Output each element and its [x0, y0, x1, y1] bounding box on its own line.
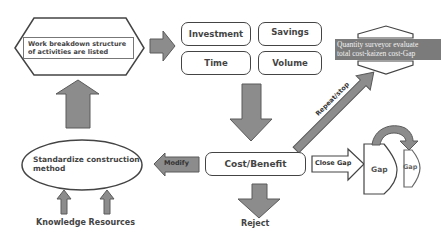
wbs-line1: Work breakdown structure: [28, 40, 129, 48]
qs-line1: Quantity surveyor evaluate: [337, 40, 439, 49]
knowledge-arrow-right: [100, 190, 114, 214]
factor-time: Time: [181, 51, 251, 75]
factor-investment-label: Investment: [189, 29, 243, 39]
arrow-up-to-wbs: [56, 80, 99, 128]
standardize-label: Standardize construction method: [33, 155, 140, 173]
cost-benefit-box: Cost/Benefit: [205, 152, 306, 176]
knowledge-arrow-left: [57, 190, 71, 214]
factor-investment: Investment: [181, 22, 251, 46]
arrow-repeat-stop: [289, 65, 381, 157]
standardize-line2: method: [33, 164, 140, 173]
factor-time-label: Time: [204, 58, 227, 68]
factor-savings: Savings: [258, 22, 322, 46]
gap-large-label: Gap: [371, 165, 388, 174]
reject-arrow: [238, 184, 280, 218]
cost-benefit-label: Cost/Benefit: [224, 159, 286, 169]
reject-label: Reject: [241, 219, 269, 228]
qs-line2: total cost-kaizen cost-Gap: [337, 49, 439, 58]
quantity-surveyor-shape-bottom: [358, 61, 413, 74]
close-gap-label: Close Gap: [315, 159, 351, 167]
wbs-line2: of activities are listed: [28, 48, 129, 56]
factor-volume: Volume: [258, 51, 322, 75]
factor-savings-label: Savings: [271, 27, 309, 37]
quantity-surveyor-label: Quantity surveyor evaluate total cost-ka…: [335, 39, 441, 60]
wbs-label: Work breakdown structure of activities a…: [23, 37, 134, 59]
modify-label: Modify: [164, 159, 189, 167]
standardize-line1: Standardize construction: [33, 155, 140, 164]
gap-small-label: Gap: [403, 163, 417, 171]
factor-volume-label: Volume: [272, 58, 308, 68]
arrow-right-to-factors: [150, 31, 175, 61]
knowledge-resources-label: Knowledge Resources: [36, 218, 135, 227]
quantity-surveyor-shape: [358, 26, 413, 38]
arrow-down-to-cost-benefit: [230, 84, 272, 141]
